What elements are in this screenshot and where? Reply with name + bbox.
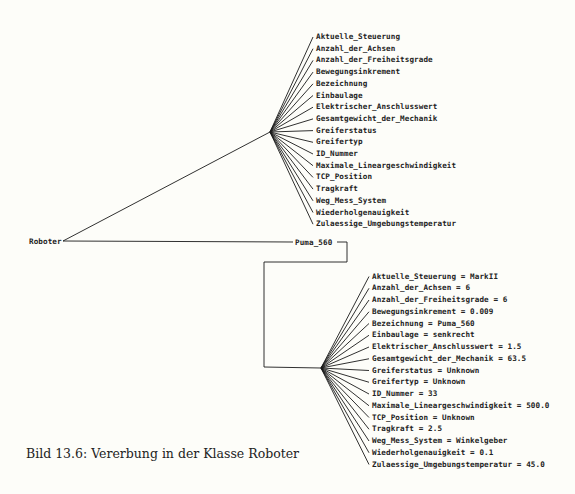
class-attribute-label: ID_Nummer	[316, 149, 358, 158]
instance-attribute-label: Tragkraft = 2.5	[372, 424, 442, 433]
class-attribute-label: Einbaulage	[316, 91, 363, 100]
class-attribute-label: Weg_Mess_System	[316, 196, 386, 205]
instance-attribute-label: Wiederholgenauigkeit = 0.1	[372, 448, 493, 457]
class-attribute-label: Tragkraft	[316, 184, 358, 193]
root-node-roboter: Roboter	[29, 237, 62, 246]
class-attribute-label: Greifertyp	[316, 137, 363, 146]
instance-node-puma-560: Puma_560	[295, 238, 332, 247]
instance-attribute-label: Gesamtgewicht_der_Mechanik = 63.5	[372, 354, 526, 363]
instance-attribute-label: Anzahl_der_Freiheitsgrade = 6	[372, 295, 507, 304]
instance-attribute-label: Bezeichnung = Puma_560	[372, 319, 475, 328]
instance-attribute-label: Einbaulage = senkrecht	[372, 330, 475, 339]
class-attribute-label: Zulaessige_Umgebungstemperatur	[316, 219, 456, 228]
class-attribute-label: Aktuelle_Steuerung	[316, 32, 400, 41]
instance-attribute-label: Anzahl_der_Achsen = 6	[372, 283, 470, 292]
class-attribute-label: Greiferstatus	[316, 126, 377, 135]
instance-attribute-label: Bewegungsinkrement = 0.009	[372, 307, 493, 316]
class-attribute-label: Gesamtgewicht_der_Mechanik	[316, 114, 437, 123]
instance-attribute-label: Greifertyp = Unknown	[372, 377, 465, 386]
figure-caption: Bild 13.6: Vererbung in der Klasse Robot…	[26, 446, 299, 461]
inheritance-tree	[0, 0, 575, 494]
class-attribute-label: Maximale_Lineargeschwindigkeit	[316, 161, 456, 170]
instance-attribute-label: Greiferstatus = Unknown	[372, 366, 479, 375]
instance-attribute-label: Maximale_Lineargeschwindigkeit = 500.0	[372, 401, 550, 410]
instance-attribute-label: Zulaessige_Umgebungstemperatur = 45.0	[372, 460, 545, 469]
instance-attribute-label: ID_Nummer = 33	[372, 389, 437, 398]
class-attribute-label: Elektrischer_Anschlusswert	[316, 102, 437, 111]
instance-attribute-label: TCP_Position = Unknown	[372, 413, 475, 422]
instance-attribute-label: Aktuelle_Steuerung = MarkII	[372, 272, 498, 281]
tree-edges	[63, 37, 369, 465]
instance-attribute-label: Elektrischer_Anschlusswert = 1.5	[372, 342, 522, 351]
instance-attribute-label: Weg_Mess_System = Winkelgeber	[372, 436, 507, 445]
class-attribute-label: Wiederholgenauigkeit	[316, 208, 409, 217]
class-attribute-label: Bezeichnung	[316, 79, 367, 88]
class-attribute-label: TCP_Position	[316, 172, 372, 181]
class-attribute-label: Anzahl_der_Achsen	[316, 44, 395, 53]
class-attribute-label: Bewegungsinkrement	[316, 67, 400, 76]
class-attribute-label: Anzahl_der_Freiheitsgrade	[316, 55, 433, 64]
